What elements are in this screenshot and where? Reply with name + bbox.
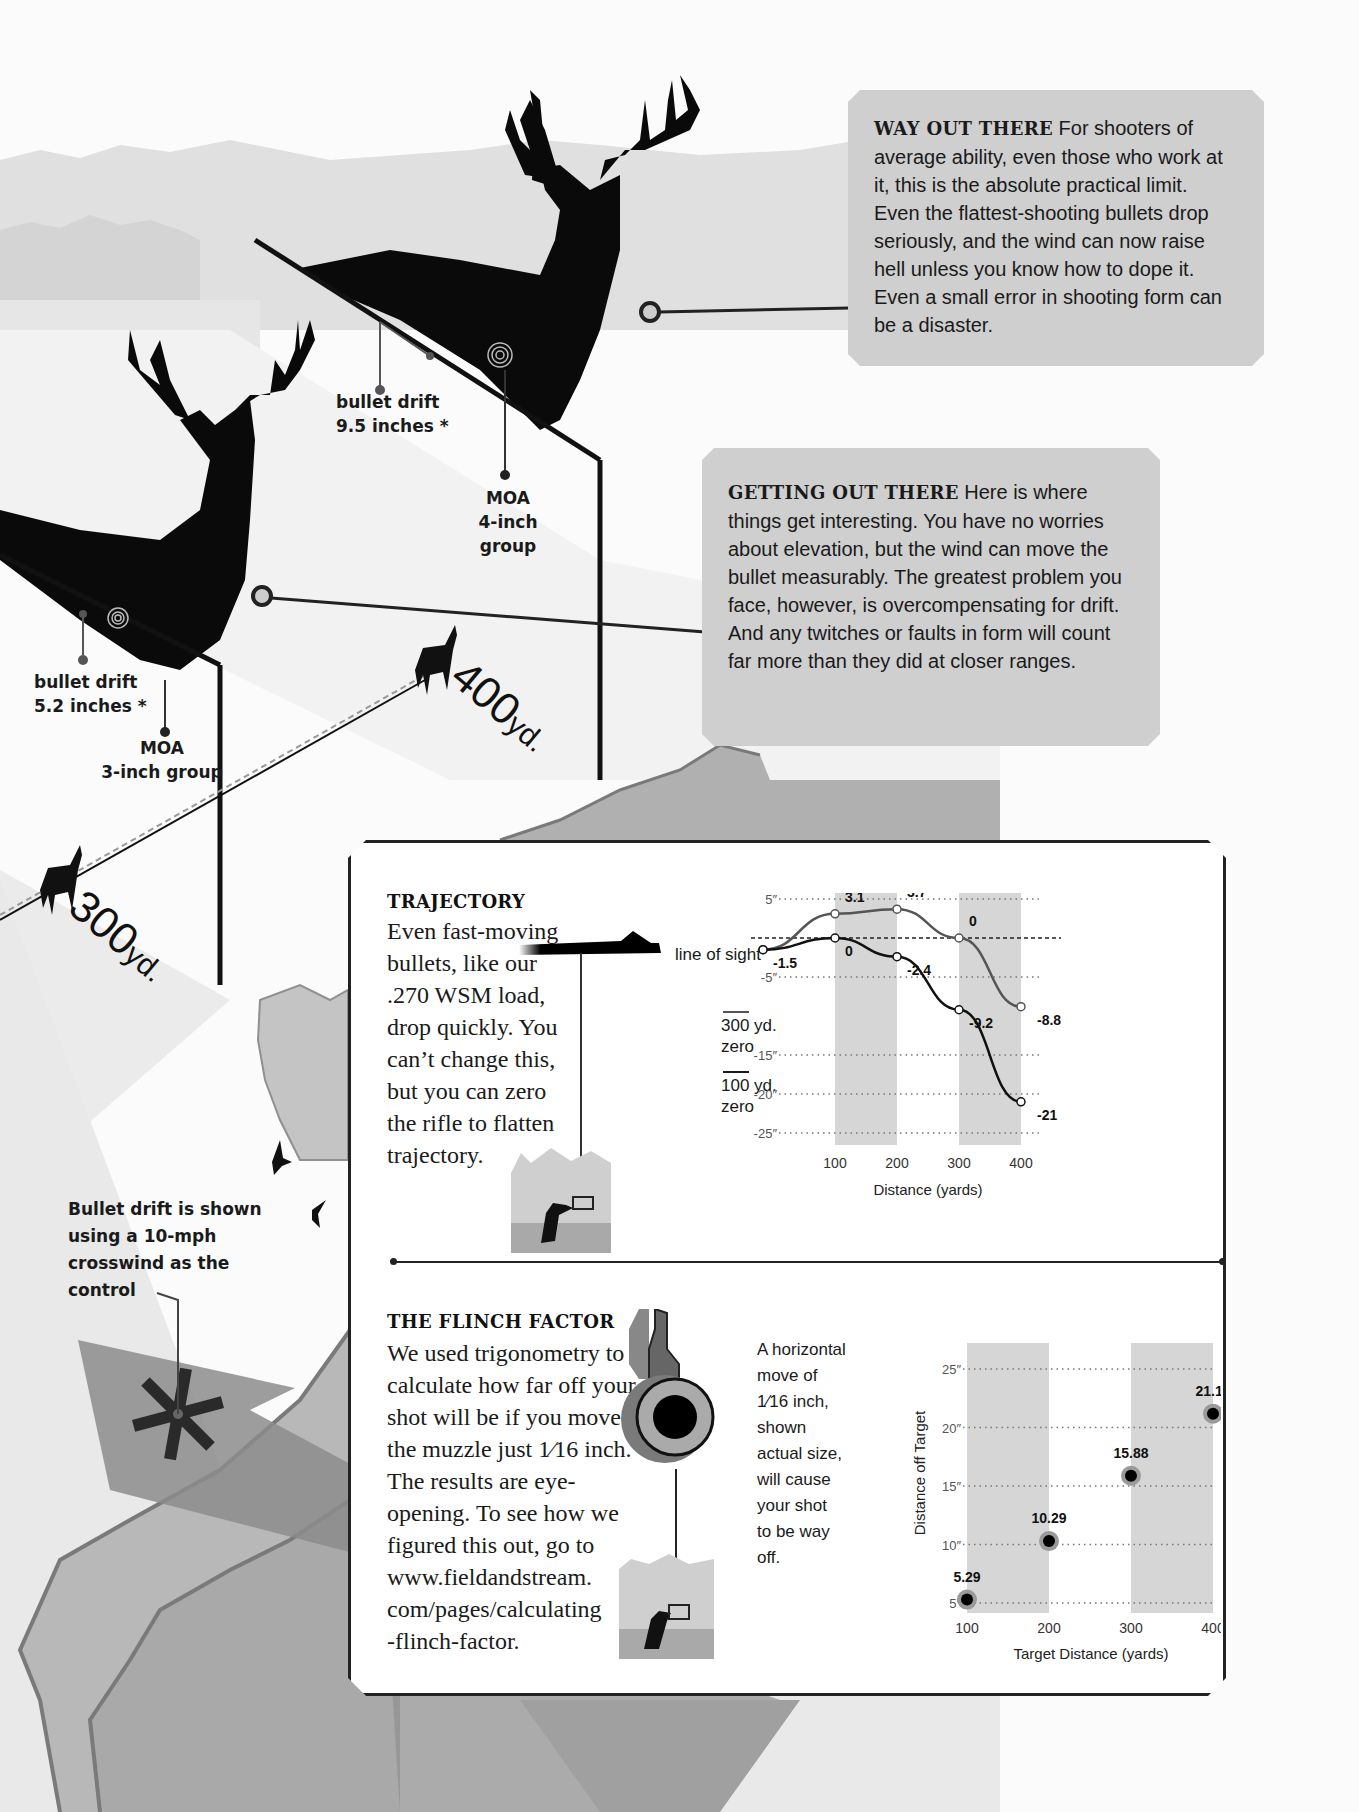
data-point xyxy=(893,953,901,961)
info-panel: TRAJECTORY Even fast-moving bullets, lik… xyxy=(348,840,1226,1696)
data-point xyxy=(831,910,839,918)
callout-body: Here is where things get interesting. Yo… xyxy=(728,481,1122,672)
y-tick: 25″ xyxy=(942,1362,961,1377)
y-tick: 20″ xyxy=(942,1421,961,1436)
y-tick: 15″ xyxy=(942,1479,961,1494)
rifle-scope-illustration xyxy=(511,923,671,1253)
callout-body: For shooters of average ability, even th… xyxy=(874,117,1223,336)
data-point xyxy=(893,905,901,913)
far-drift-label: bullet drift 9.5 inches * xyxy=(336,390,449,438)
flinch-link-end[interactable]: -flinch-factor. xyxy=(387,1625,636,1657)
x-axis-label: Distance (yards) xyxy=(873,1181,982,1198)
callout-getting-out-there: GETTING OUT THERE Here is where things g… xyxy=(702,448,1160,746)
data-label: -21 xyxy=(1037,1107,1057,1123)
data-label: 3.7 xyxy=(907,893,927,900)
line-of-sight-label: line of sight xyxy=(675,944,761,965)
data-label: 0 xyxy=(969,913,977,929)
y-tick: -20″ xyxy=(754,1087,778,1102)
trajectory-title: TRAJECTORY xyxy=(387,891,525,912)
legend-swatch-100 xyxy=(723,1071,749,1073)
bullet-hole xyxy=(1043,1535,1055,1547)
data-label: -8.8 xyxy=(1037,1012,1061,1028)
muzzle-illustration xyxy=(619,1309,719,1659)
flinch-title: THE FLINCH FACTOR xyxy=(387,1311,614,1332)
data-label: 10.29 xyxy=(1031,1510,1066,1526)
x-tick: 100 xyxy=(823,1155,847,1171)
x-tick: 400 xyxy=(1009,1155,1033,1171)
callout-way-out-there: WAY OUT THERE For shooters of average ab… xyxy=(848,90,1264,366)
bullet-hole xyxy=(1125,1470,1137,1482)
data-point xyxy=(955,1006,963,1014)
x-tick: 200 xyxy=(1037,1620,1061,1636)
x-axis-label: Target Distance (yards) xyxy=(1013,1645,1168,1662)
flinch-note: A horizontal move of 1⁄16 inch, shown ac… xyxy=(757,1337,846,1571)
flinch-link[interactable]: www.fieldandstream. xyxy=(387,1561,636,1593)
flinch-chart: 5″10″15″20″25″5.2910.2915.8821.181002003… xyxy=(881,1303,1221,1663)
bullet-hole xyxy=(961,1594,973,1606)
data-point xyxy=(1017,1098,1025,1106)
data-label: -1.5 xyxy=(773,955,797,971)
y-tick: 5″ xyxy=(765,893,777,907)
x-tick: 100 xyxy=(955,1620,979,1636)
x-tick: 200 xyxy=(885,1155,909,1171)
data-point xyxy=(831,934,839,942)
near-moa-label: MOA 3-inch group xyxy=(100,736,224,784)
x-tick: 300 xyxy=(947,1155,971,1171)
data-label: 21.18 xyxy=(1195,1383,1221,1399)
x-tick: 300 xyxy=(1119,1620,1143,1636)
data-label: -9.2 xyxy=(969,1015,993,1031)
data-point xyxy=(759,946,767,954)
data-label: 3.1 xyxy=(845,893,865,905)
callout-heading: GETTING OUT THERE xyxy=(728,482,959,503)
y-tick: -25″ xyxy=(754,1126,778,1141)
flinch-body: We used trigonometry to calculate how fa… xyxy=(387,1337,636,1657)
data-label: 5.29 xyxy=(953,1569,980,1585)
data-label: 15.88 xyxy=(1113,1445,1148,1461)
data-label: 0 xyxy=(845,943,853,959)
shaded-band xyxy=(835,893,897,1145)
data-point xyxy=(955,934,963,942)
legend-swatch-300 xyxy=(723,1011,749,1013)
section-divider xyxy=(393,1261,1223,1263)
far-moa-label: MOA 4-inch group xyxy=(450,486,566,558)
trajectory-chart: 5″-5″-15″-20″-25″-1.53.13.70-8.80-2.4-9.… xyxy=(751,893,1211,1223)
flinch-link-cont[interactable]: com/pages/calculating xyxy=(387,1593,636,1625)
near-drift-label: bullet drift 5.2 inches * xyxy=(34,670,147,718)
callout-heading: WAY OUT THERE xyxy=(874,118,1053,139)
data-label: -2.4 xyxy=(907,962,931,978)
crosswind-footnote: Bullet drift is shown using a 10-mph cro… xyxy=(68,1196,262,1304)
data-point xyxy=(1017,1003,1025,1011)
y-tick: -5″ xyxy=(761,970,778,985)
y-tick: 10″ xyxy=(942,1538,961,1553)
y-axis-label: Distance off Target xyxy=(911,1410,928,1535)
y-tick: -15″ xyxy=(754,1048,778,1063)
x-tick: 400 xyxy=(1201,1620,1221,1636)
bullet-hole xyxy=(1207,1408,1219,1420)
